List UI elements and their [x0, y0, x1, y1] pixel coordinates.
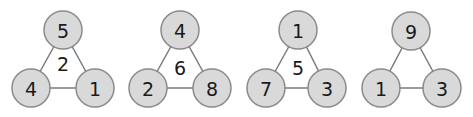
center-value: 5 — [292, 57, 304, 79]
node-bottom-right: 3 — [308, 69, 346, 107]
node-value: 7 — [260, 78, 272, 100]
number-triangle: 1735 — [247, 11, 346, 107]
node-value: 5 — [57, 20, 69, 42]
node-bottom-left: 4 — [12, 69, 50, 107]
node-value: 9 — [405, 21, 417, 43]
node-bottom-right: 1 — [76, 69, 114, 107]
node-bottom-left: 7 — [247, 69, 285, 107]
node-bottom-right: 8 — [193, 69, 231, 107]
node-value: 1 — [89, 78, 101, 100]
center-value: 6 — [174, 57, 186, 79]
number-triangle: 5412 — [12, 11, 114, 107]
node-top: 5 — [44, 11, 82, 49]
node-value: 2 — [142, 78, 154, 100]
node-value: 1 — [375, 78, 387, 100]
node-value: 4 — [174, 20, 186, 42]
number-triangles-diagram: 541242861735913 — [0, 0, 473, 117]
node-top: 1 — [279, 11, 317, 49]
node-bottom-left: 1 — [362, 69, 400, 107]
node-value: 4 — [25, 78, 37, 100]
node-value: 3 — [436, 78, 448, 100]
number-triangle: 4286 — [129, 11, 231, 107]
node-bottom-right: 3 — [423, 69, 461, 107]
node-value: 3 — [321, 78, 333, 100]
node-top: 9 — [392, 12, 430, 50]
node-top: 4 — [161, 11, 199, 49]
node-value: 1 — [292, 20, 304, 42]
node-value: 8 — [206, 78, 218, 100]
number-triangle: 913 — [362, 12, 461, 107]
node-bottom-left: 2 — [129, 69, 167, 107]
center-value: 2 — [57, 53, 69, 75]
